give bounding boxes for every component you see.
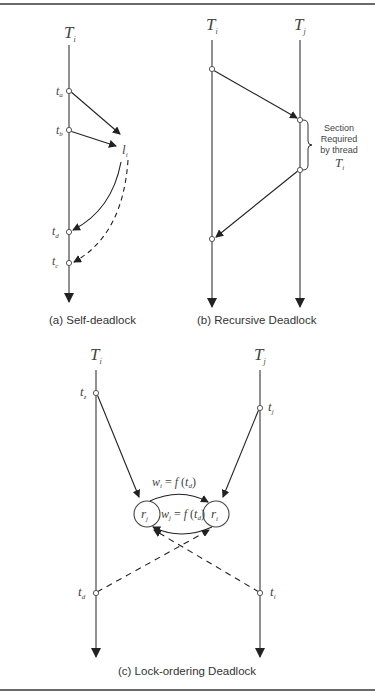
event-node-ta [66, 88, 71, 93]
dashed-request-ti-to-rj [154, 530, 259, 592]
annotation-line2: Required [321, 134, 358, 144]
event-node-ti-start [209, 66, 214, 71]
deadlock-figure: Ti ta tb li td tc (a) Self-deadlock [0, 0, 375, 695]
dashed-request-td-to-ri [97, 530, 209, 592]
panel-b-recursive-deadlock: Ti Tj Section Required by thread Ti (b) … [197, 15, 358, 326]
event-node-tz [93, 390, 98, 395]
thread-label-ti: Ti [90, 345, 102, 366]
thread-label-tj: Tj [294, 15, 306, 36]
time-label-tj: tj [268, 399, 274, 416]
edge-label-wj: wj = f (td) [161, 507, 205, 522]
arrow-tj-to-ti [216, 170, 299, 237]
event-node-ti [257, 590, 262, 595]
caption-b: (b) Recursive Deadlock [197, 314, 317, 326]
time-label-ta: ta [56, 84, 63, 99]
annotation-line3: by thread [320, 145, 358, 155]
event-node-ti-end [209, 236, 214, 241]
arrow-tj-to-ri [223, 409, 259, 497]
event-node-tj-enter [297, 117, 302, 122]
event-node-tc [66, 260, 71, 265]
dashed-arrow-li-to-tc [74, 160, 128, 262]
annotation-line1: Section [324, 123, 354, 133]
time-label-td: td [52, 224, 59, 240]
edge-label-wi: wi = f (td) [152, 475, 196, 490]
annotation-thread-ti: Ti [335, 155, 344, 172]
event-node-tj-exit [297, 167, 302, 172]
thread-label-ti: Ti [64, 23, 76, 44]
event-node-td [93, 590, 98, 595]
arrow-ta-to-li [70, 91, 120, 134]
event-node-tj [257, 405, 262, 410]
time-label-tb: tb [56, 123, 63, 138]
time-label-td: td [78, 584, 86, 601]
caption-a: (a) Self-deadlock [49, 314, 136, 326]
time-label-tz: tz [80, 384, 87, 401]
lock-label-li: li [122, 142, 128, 159]
arrow-ti-to-tj [213, 70, 297, 118]
caption-c: (c) Lock-ordering Deadlock [118, 665, 256, 677]
arrow-li-to-td [73, 162, 121, 230]
arrow-tb-to-li [70, 131, 116, 146]
event-node-td [66, 229, 71, 234]
thread-label-tj: Tj [254, 345, 266, 366]
thread-label-ti: Ti [206, 15, 218, 36]
resource-rj [134, 501, 160, 527]
event-node-tb [66, 127, 71, 132]
section-brace [303, 120, 312, 170]
time-label-ti: ti [270, 584, 276, 601]
arrow-tz-to-rj [97, 394, 139, 497]
wait-edge-rj-to-ri [150, 494, 208, 502]
panel-c-lock-ordering-deadlock: Ti Tj tz tj rj ri wi = f (td) wj = f (td… [78, 345, 276, 677]
time-label-tc: tc [52, 254, 59, 270]
panel-a-self-deadlock: Ti ta tb li td tc (a) Self-deadlock [49, 23, 136, 326]
